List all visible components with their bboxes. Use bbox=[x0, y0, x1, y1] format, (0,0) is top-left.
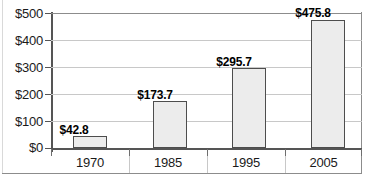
y-axis-labels: $500 $400 $300 $200 $100 $0 bbox=[0, 0, 43, 176]
bar-label-2005: $475.8 bbox=[286, 6, 340, 20]
bar-chart: $500 $400 $300 $200 $100 $0 $42.8 $173.7… bbox=[0, 0, 373, 176]
x-axis-label-1985: 1985 bbox=[129, 155, 207, 170]
bar-label-1970: $42.8 bbox=[52, 123, 96, 137]
x-axis-label-1970: 1970 bbox=[51, 155, 129, 170]
bar-1970[interactable] bbox=[73, 136, 107, 148]
bar-1995[interactable] bbox=[232, 68, 266, 148]
y-axis-label-100: $100 bbox=[2, 114, 43, 129]
bar-1985[interactable] bbox=[153, 101, 187, 148]
y-axis-label-0: $0 bbox=[2, 140, 43, 155]
y-axis-label-400: $400 bbox=[2, 33, 43, 48]
y-axis-label-200: $200 bbox=[2, 87, 43, 102]
x-axis-label-2005: 2005 bbox=[285, 155, 362, 170]
bar-2005[interactable] bbox=[311, 20, 345, 149]
bar-label-1995: $295.7 bbox=[207, 55, 261, 69]
y-axis-label-500: $500 bbox=[2, 6, 43, 21]
y-axis-label-300: $300 bbox=[2, 60, 43, 75]
plot-area bbox=[51, 13, 362, 149]
bar-label-1985: $173.7 bbox=[128, 88, 182, 102]
x-axis-label-1995: 1995 bbox=[207, 155, 285, 170]
chart-frame-bottom-border bbox=[2, 173, 362, 174]
